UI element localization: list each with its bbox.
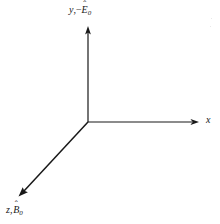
z-axis-label-separator: ,: [10, 204, 13, 215]
y-axis-label-symbol-group: ˆE: [82, 5, 88, 15]
z-axis-label: z, ˆB0: [6, 205, 23, 217]
y-axis-label-hat-accent: ˆ: [83, 0, 86, 9]
x-axis-label: x: [206, 115, 210, 125]
axes-figure: [0, 0, 220, 224]
z-axis-label-subscript: 0: [19, 209, 23, 217]
z-axis-label-symbol-group: ˆB: [13, 205, 19, 215]
x-axis-label-variable: x: [206, 114, 210, 125]
y-axis-label: y,−ˆE0: [69, 5, 91, 17]
y-axis-label-subscript: 0: [88, 9, 92, 17]
scan-artifact: [210, 26, 211, 27]
scan-artifact: [211, 18, 212, 19]
z-axis-label-hat-accent: ˆ: [15, 200, 18, 209]
figure-background: [0, 0, 220, 224]
